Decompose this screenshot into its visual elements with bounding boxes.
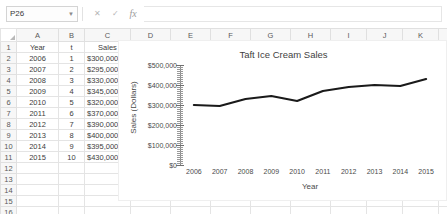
cell-a4[interactable]: 2008 (17, 75, 59, 86)
x-axis-labels: 2006200720082009201020112012201320142015 (181, 168, 439, 180)
excel-window: P26 ▼ ✕ ✓ fx A B C D E F G H (0, 0, 447, 214)
cell-b13[interactable] (59, 174, 85, 185)
cell-g16[interactable] (251, 207, 291, 215)
column-header-b[interactable]: B (59, 29, 85, 42)
sales-line-series (181, 65, 439, 165)
row-header-9[interactable]: 9 (1, 130, 17, 141)
cell-b12[interactable] (59, 163, 85, 174)
row-header-15[interactable]: 15 (1, 196, 17, 207)
formula-input[interactable] (144, 6, 442, 22)
cell-i16[interactable] (331, 207, 367, 215)
cell-a6[interactable]: 2010 (17, 97, 59, 108)
cell-l16[interactable] (439, 207, 447, 215)
row-header-13[interactable]: 13 (1, 174, 17, 185)
y-axis-major-tick (176, 165, 184, 166)
check-icon[interactable]: ✓ (106, 6, 124, 22)
row-header-7[interactable]: 7 (1, 108, 17, 119)
chevron-down-icon[interactable]: ▼ (68, 11, 74, 17)
cell-b9[interactable]: 8 (59, 130, 85, 141)
name-box[interactable]: P26 ▼ (6, 6, 78, 22)
cell-f16[interactable] (211, 207, 251, 215)
cell-a16[interactable] (17, 207, 59, 215)
cell-b15[interactable] (59, 196, 85, 207)
column-header-a[interactable]: A (17, 29, 59, 42)
cell-a15[interactable] (17, 196, 59, 207)
cell-a8[interactable]: 2012 (17, 119, 59, 130)
cell-b14[interactable] (59, 185, 85, 196)
cell-b1[interactable]: t (59, 42, 85, 53)
row-header-5[interactable]: 5 (1, 86, 17, 97)
row-header-12[interactable]: 12 (1, 163, 17, 174)
cell-a1[interactable]: Year (17, 42, 59, 53)
cell-h16[interactable] (291, 207, 331, 215)
cell-a11[interactable]: 2015 (17, 152, 59, 163)
cell-b10[interactable]: 9 (59, 141, 85, 152)
cell-c16[interactable] (85, 207, 131, 215)
row-header-2[interactable]: 2 (1, 53, 17, 64)
row-header-3[interactable]: 3 (1, 64, 17, 75)
cell-b8[interactable]: 7 (59, 119, 85, 130)
y-axis-tick-label: $300,000 (131, 102, 177, 109)
cell-b7[interactable]: 6 (59, 108, 85, 119)
cell-k16[interactable] (403, 207, 439, 215)
formula-bar-divider (82, 7, 83, 21)
row-header-1[interactable]: 1 (1, 42, 17, 53)
x-axis-title: Year (181, 182, 439, 191)
cell-a3[interactable]: 2007 (17, 64, 59, 75)
row-header-8[interactable]: 8 (1, 119, 17, 130)
row-header-4[interactable]: 4 (1, 75, 17, 86)
row-header-10[interactable]: 10 (1, 141, 17, 152)
cell-d16[interactable] (131, 207, 171, 215)
y-axis-tick-label: $100,000 (131, 142, 177, 149)
table-row: 16 (1, 207, 447, 215)
close-icon[interactable]: ✕ (88, 6, 106, 22)
cell-e16[interactable] (171, 207, 211, 215)
y-axis-tick-label: $400,000 (131, 82, 177, 89)
cell-a10[interactable]: 2014 (17, 141, 59, 152)
row-header-6[interactable]: 6 (1, 97, 17, 108)
cell-a14[interactable] (17, 185, 59, 196)
embedded-chart[interactable]: Taft Ice Cream Sales Sales (Dollars) $0$… (118, 40, 447, 201)
row-header-16[interactable]: 16 (1, 207, 17, 215)
select-all-corner[interactable] (1, 29, 17, 42)
cell-b16[interactable] (59, 207, 85, 215)
formula-bar-buttons: ✕ ✓ fx (88, 6, 142, 22)
cell-a7[interactable]: 2011 (17, 108, 59, 119)
chart-plot-area (181, 65, 439, 165)
cell-b5[interactable]: 4 (59, 86, 85, 97)
cell-a2[interactable]: 2006 (17, 53, 59, 64)
cell-a13[interactable] (17, 174, 59, 185)
cell-b2[interactable]: 1 (59, 53, 85, 64)
cell-b11[interactable]: 10 (59, 152, 85, 163)
cell-j16[interactable] (367, 207, 403, 215)
x-axis-tick-label: 2015 (411, 168, 441, 175)
chart-title: Taft Ice Cream Sales (119, 49, 447, 60)
cell-b4[interactable]: 3 (59, 75, 85, 86)
function-icon[interactable]: fx (124, 6, 142, 22)
y-axis-tick-label: $200,000 (131, 122, 177, 129)
cell-b6[interactable]: 5 (59, 97, 85, 108)
row-header-14[interactable]: 14 (1, 185, 17, 196)
sales-line (194, 79, 426, 106)
y-axis-labels: $0$100,000$200,000$300,000$400,000$500,0… (131, 65, 177, 165)
cell-a9[interactable]: 2013 (17, 130, 59, 141)
y-axis-tick-label: $500,000 (131, 62, 177, 69)
cell-a12[interactable] (17, 163, 59, 174)
name-box-value: P26 (10, 10, 68, 18)
cell-b3[interactable]: 2 (59, 64, 85, 75)
formula-bar: P26 ▼ ✕ ✓ fx (0, 0, 447, 28)
cell-a5[interactable]: 2009 (17, 86, 59, 97)
y-axis-tick-label: $0 (131, 162, 177, 169)
row-header-11[interactable]: 11 (1, 152, 17, 163)
